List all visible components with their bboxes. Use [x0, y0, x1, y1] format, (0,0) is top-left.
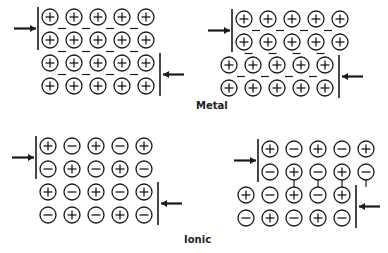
push-arrow-right-icon-head — [250, 157, 256, 164]
metal-ionic-deformation-diagram — [0, 0, 388, 253]
push-arrow-left-icon-head — [163, 71, 169, 78]
push-arrow-left-icon-head — [342, 73, 348, 80]
ionic-label: Ionic — [184, 234, 211, 245]
push-arrow-left-icon-head — [161, 200, 167, 207]
metal-label: Metal — [196, 100, 228, 111]
push-arrow-right-icon-head — [28, 154, 34, 161]
push-arrow-right-icon-head — [30, 25, 36, 32]
push-arrow-left-icon-head — [359, 203, 365, 210]
push-arrow-right-icon-head — [224, 27, 230, 34]
